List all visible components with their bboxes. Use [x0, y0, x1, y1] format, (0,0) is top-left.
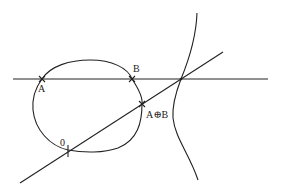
- curve-oval-component: [33, 60, 142, 152]
- elliptic-curve-diagram: A B A⊕B 0: [0, 0, 283, 194]
- label-zero: 0: [60, 137, 65, 148]
- label-A-plus-B: A⊕B: [146, 109, 169, 120]
- line-through-zero-sum: [20, 52, 223, 183]
- intersection-point: [180, 78, 183, 81]
- curve-right-branch: [173, 13, 198, 180]
- label-A: A: [38, 83, 46, 94]
- label-B: B: [133, 63, 140, 74]
